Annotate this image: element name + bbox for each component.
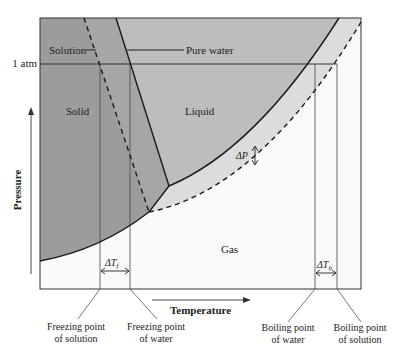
solid-label: Solid xyxy=(66,105,90,117)
temperature-axis-label: Temperature xyxy=(170,304,231,316)
one-atm-label: 1 atm xyxy=(12,57,37,69)
gas-label: Gas xyxy=(221,243,238,255)
pure-water-label: Pure water xyxy=(186,44,234,56)
bp-water-leader xyxy=(288,289,315,322)
dp-label: ΔP xyxy=(235,150,248,161)
bp-water-text-1: Boiling point xyxy=(261,322,314,333)
liquid-label: Liquid xyxy=(185,105,215,117)
solution-label: Solution xyxy=(49,44,87,56)
fp-solution-text-2: of solution xyxy=(54,333,97,344)
phase-diagram: Solution Pure water 1 atm Solid Liquid G… xyxy=(0,0,394,354)
bp-solution-leader xyxy=(337,289,361,322)
bp-solution-text-2: of solution xyxy=(338,334,381,345)
bp-solution-text-1: Boiling point xyxy=(333,322,386,333)
fp-water-leader xyxy=(130,289,157,319)
fp-water-text-1: Freezing point xyxy=(127,321,185,332)
fp-solution-text-1: Freezing point xyxy=(47,321,105,332)
fp-solution-leader xyxy=(78,289,100,319)
pressure-axis-label: Pressure xyxy=(11,170,23,211)
bp-water-text-2: of water xyxy=(271,334,305,345)
fp-water-text-2: of water xyxy=(139,333,173,344)
